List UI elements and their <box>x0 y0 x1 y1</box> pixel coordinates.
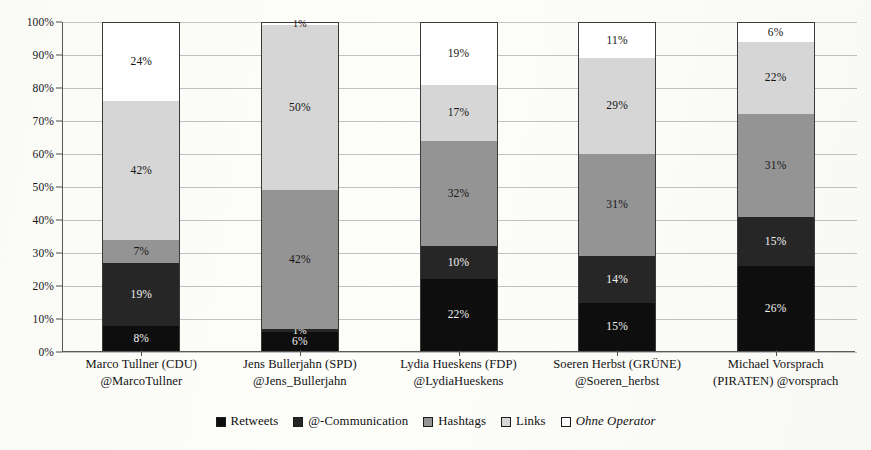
category-handle: @Jens_Bullerjahn <box>221 373 380 390</box>
category-name: Soeren Herbst (GRÜNE) <box>553 357 681 371</box>
category-handle: @Soeren_herbst <box>538 373 697 390</box>
x-axis-category-label: Marco Tullner (CDU)@MarcoTullner <box>62 356 221 391</box>
legend-label: Retweets <box>231 414 279 429</box>
legend-label: Links <box>516 414 546 429</box>
y-axis-tick-label: 70% <box>33 115 54 127</box>
y-axis-tick-label: 60% <box>33 148 54 160</box>
x-axis-category-labels: Marco Tullner (CDU)@MarcoTullnerJens Bul… <box>62 356 855 398</box>
legend-item[interactable]: Ohne Operator <box>561 414 656 429</box>
legend-label: Ohne Operator <box>576 414 656 429</box>
stacked-bar-chart-figure: 0%10%20%30%40%50%60%70%80%90%100% 8%19%7… <box>0 0 871 450</box>
x-axis-category-label: Michael Vorsprach(PIRATEN) @vorsprach <box>696 356 855 391</box>
chart-legend: Retweets@-CommunicationHashtagsLinksOhne… <box>0 414 871 429</box>
x-axis-category-label: Lydia Hueskens (FDP)@LydiaHueskens <box>379 356 538 391</box>
y-axis-tick-label: 50% <box>33 181 54 193</box>
ohne-operator-swatch <box>561 417 571 427</box>
category-handle: @LydiaHueskens <box>379 373 538 390</box>
category-handle: @MarcoTullner <box>62 373 221 390</box>
y-axis-tick-label: 20% <box>33 280 54 292</box>
category-name: Jens Bullerjahn (SPD) <box>243 357 357 371</box>
gridline <box>62 352 857 353</box>
category-name: Lydia Hueskens (FDP) <box>400 357 516 371</box>
y-axis-tick-label: 100% <box>27 16 54 28</box>
at-communication-swatch <box>293 417 303 427</box>
hashtags-swatch <box>423 417 433 427</box>
legend-label: Hashtags <box>438 414 486 429</box>
x-axis-category-label: Soeren Herbst (GRÜNE)@Soeren_herbst <box>538 356 697 391</box>
legend-item[interactable]: Retweets <box>216 414 279 429</box>
retweets-swatch <box>216 417 226 427</box>
category-name: Marco Tullner (CDU) <box>86 357 198 371</box>
category-handle: (PIRATEN) @vorsprach <box>696 373 855 390</box>
y-axis-tick-label: 90% <box>33 49 54 61</box>
y-axis: 0%10%20%30%40%50%60%70%80%90%100% <box>0 22 62 352</box>
y-axis-tick-label: 0% <box>38 346 54 358</box>
legend-item[interactable]: Hashtags <box>423 414 486 429</box>
y-axis-tick-label: 40% <box>33 214 54 226</box>
x-axis-category-label: Jens Bullerjahn (SPD)@Jens_Bullerjahn <box>221 356 380 391</box>
links-swatch <box>501 417 511 427</box>
category-name: Michael Vorsprach <box>728 357 824 371</box>
y-axis-tick-label: 30% <box>33 247 54 259</box>
y-axis-tick-label: 80% <box>33 82 54 94</box>
legend-label: @-Communication <box>308 414 408 429</box>
legend-item[interactable]: @-Communication <box>293 414 408 429</box>
legend-item[interactable]: Links <box>501 414 546 429</box>
plot-area: 8%19%7%42%24%6%1%42%50%1%22%10%32%17%19%… <box>62 22 855 352</box>
plot-frame <box>62 22 855 352</box>
y-axis-tick-label: 10% <box>33 313 54 325</box>
